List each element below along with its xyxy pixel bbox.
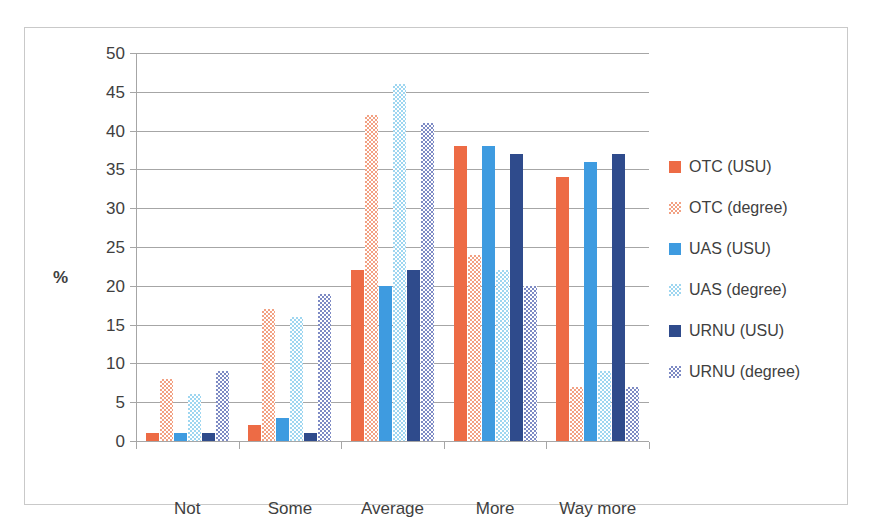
legend-item-urnu-usu[interactable]: URNU (USU): [669, 310, 859, 351]
legend-swatch-icon: [669, 161, 681, 173]
y-tick-label-5: 5: [79, 394, 125, 411]
bar-way-more-urnu-usu[interactable]: [612, 154, 625, 441]
y-tick-label-50: 50: [79, 45, 125, 62]
x-tick-mark-0: [136, 442, 137, 449]
y-tick-label-40: 40: [79, 123, 125, 140]
legend-label: UAS (USU): [689, 240, 771, 258]
bar-some-otc-usu[interactable]: [248, 425, 261, 441]
y-tick-mark-25: [130, 247, 136, 248]
x-axis-label-average: Average: [361, 499, 424, 519]
y-tick-mark-40: [130, 131, 136, 132]
y-tick-mark-45: [130, 92, 136, 93]
bar-not-uas-degree[interactable]: [188, 394, 201, 441]
bar-more-urnu-degree[interactable]: [524, 286, 537, 441]
legend-item-urnu-degree[interactable]: URNU (degree): [669, 351, 859, 392]
y-tick-label-20: 20: [79, 278, 125, 295]
legend-label: UAS (degree): [689, 281, 787, 299]
y-tick-mark-30: [130, 208, 136, 209]
y-axis-title: %: [53, 268, 68, 288]
legend-swatch-icon: [669, 284, 681, 296]
x-tick-mark-end: [649, 442, 650, 449]
x-tick-mark-2: [341, 442, 342, 449]
bar-some-uas-degree[interactable]: [290, 317, 303, 441]
x-tick-mark-4: [546, 442, 547, 449]
legend-label: OTC (degree): [689, 199, 788, 217]
x-tick-mark-3: [444, 442, 445, 449]
bar-way-more-uas-degree[interactable]: [598, 371, 611, 441]
legend-swatch-icon: [669, 202, 681, 214]
gridline-50: [136, 53, 649, 54]
y-tick-mark-10: [130, 363, 136, 364]
y-tick-label-35: 35: [79, 161, 125, 178]
bar-more-otc-usu[interactable]: [454, 146, 467, 441]
y-axis-tick-labels: 50454035302520151050: [59, 28, 125, 506]
bar-not-urnu-usu[interactable]: [202, 433, 215, 441]
legend-swatch-icon: [669, 366, 681, 378]
y-tick-label-0: 0: [79, 433, 125, 450]
bar-more-uas-usu[interactable]: [482, 146, 495, 441]
bar-average-uas-usu[interactable]: [379, 286, 392, 441]
bar-more-otc-degree[interactable]: [468, 255, 481, 441]
bar-not-otc-degree[interactable]: [160, 379, 173, 441]
bar-way-more-urnu-degree[interactable]: [626, 387, 639, 441]
y-tick-label-15: 15: [79, 317, 125, 334]
y-tick-mark-50: [130, 53, 136, 54]
y-tick-label-45: 45: [79, 84, 125, 101]
legend-item-uas-degree[interactable]: UAS (degree): [669, 269, 859, 310]
bar-way-more-otc-usu[interactable]: [556, 177, 569, 441]
bar-not-urnu-degree[interactable]: [216, 371, 229, 441]
chart-legend: OTC (USU)OTC (degree)UAS (USU)UAS (degre…: [669, 146, 859, 392]
bar-not-otc-usu[interactable]: [146, 433, 159, 441]
bar-more-urnu-usu[interactable]: [510, 154, 523, 441]
bar-more-uas-degree[interactable]: [496, 270, 509, 441]
bar-average-otc-degree[interactable]: [365, 115, 378, 441]
legend-swatch-icon: [669, 325, 681, 337]
y-tick-mark-20: [130, 286, 136, 287]
plot-area: NotSomeAverageMoreWay more: [136, 53, 649, 441]
chart-frame: 50454035302520151050 % NotSomeAverageMor…: [24, 27, 848, 505]
bar-some-urnu-degree[interactable]: [318, 294, 331, 441]
legend-item-otc-usu[interactable]: OTC (USU): [669, 146, 859, 187]
y-tick-label-25: 25: [79, 239, 125, 256]
y-tick-label-30: 30: [79, 200, 125, 217]
bar-way-more-uas-usu[interactable]: [584, 162, 597, 441]
legend-label: OTC (USU): [689, 158, 772, 176]
bar-not-uas-usu[interactable]: [174, 433, 187, 441]
x-axis-label-not: Not: [174, 499, 200, 519]
y-tick-mark-15: [130, 325, 136, 326]
legend-label: URNU (degree): [689, 363, 800, 381]
y-tick-mark-35: [130, 169, 136, 170]
y-tick-label-10: 10: [79, 355, 125, 372]
x-axis-label-way-more: Way more: [559, 499, 636, 519]
y-tick-mark-5: [130, 402, 136, 403]
x-tick-mark-1: [239, 442, 240, 449]
x-axis-label-more: More: [476, 499, 515, 519]
bar-average-uas-degree[interactable]: [393, 84, 406, 441]
legend-label: URNU (USU): [689, 322, 784, 340]
legend-swatch-icon: [669, 243, 681, 255]
bar-some-otc-degree[interactable]: [262, 309, 275, 441]
gridline-0: [136, 441, 649, 442]
x-axis-label-some: Some: [268, 499, 312, 519]
legend-item-uas-usu[interactable]: UAS (USU): [669, 228, 859, 269]
bar-some-uas-usu[interactable]: [276, 418, 289, 441]
bar-some-urnu-usu[interactable]: [304, 433, 317, 441]
bar-average-urnu-degree[interactable]: [421, 123, 434, 441]
legend-item-otc-degree[interactable]: OTC (degree): [669, 187, 859, 228]
bar-average-urnu-usu[interactable]: [407, 270, 420, 441]
bar-way-more-otc-degree[interactable]: [570, 387, 583, 441]
bar-average-otc-usu[interactable]: [351, 270, 364, 441]
